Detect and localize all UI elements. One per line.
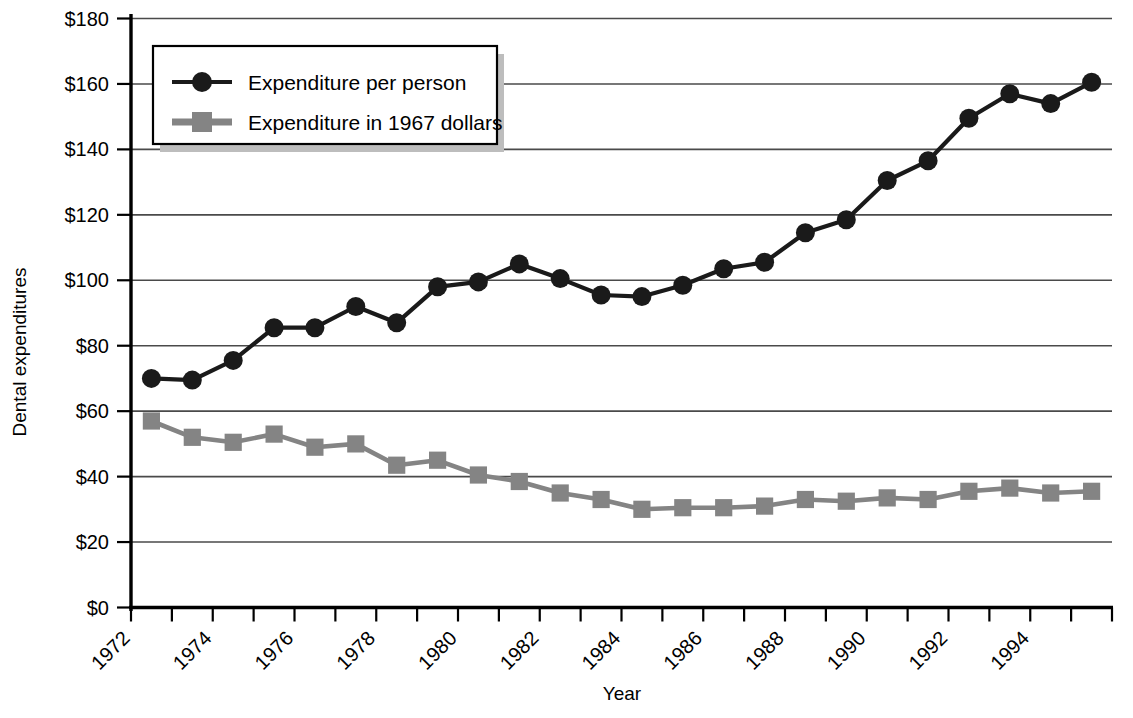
- y-tick-label: $20: [76, 531, 109, 553]
- y-tick-label: $0: [87, 597, 109, 619]
- y-tick-label: $100: [65, 269, 110, 291]
- data-point-marker[interactable]: [837, 210, 856, 229]
- data-point-marker[interactable]: [673, 276, 692, 295]
- data-point-marker[interactable]: [878, 171, 897, 190]
- y-tick-label: $140: [65, 138, 110, 160]
- y-tick-label: $120: [65, 204, 110, 226]
- data-point-marker[interactable]: [143, 412, 160, 429]
- data-point-marker[interactable]: [879, 489, 896, 506]
- data-point-marker[interactable]: [755, 253, 774, 272]
- data-point-marker[interactable]: [838, 493, 855, 510]
- data-point-marker[interactable]: [593, 491, 610, 508]
- data-point-marker[interactable]: [1000, 84, 1019, 103]
- line-chart: $0$20$40$60$80$100$120$140$160$180 19721…: [0, 0, 1133, 718]
- data-point-marker[interactable]: [428, 277, 447, 296]
- data-point-marker[interactable]: [714, 259, 733, 278]
- data-point-marker[interactable]: [225, 434, 242, 451]
- data-point-marker[interactable]: [551, 269, 570, 288]
- y-tick-label: $160: [65, 73, 110, 95]
- data-point-marker[interactable]: [224, 351, 243, 370]
- data-point-marker[interactable]: [511, 473, 528, 490]
- legend-label: Expenditure in 1967 dollars: [248, 111, 503, 134]
- data-point-marker[interactable]: [552, 484, 569, 501]
- y-axis-title: Dental expenditures: [9, 268, 30, 437]
- data-point-marker[interactable]: [1083, 483, 1100, 500]
- data-point-marker[interactable]: [796, 223, 815, 242]
- data-point-marker[interactable]: [305, 318, 324, 337]
- y-tick-label: $40: [76, 466, 109, 488]
- data-point-marker[interactable]: [183, 371, 202, 390]
- data-point-marker[interactable]: [266, 426, 283, 443]
- data-point-marker[interactable]: [756, 498, 773, 515]
- data-point-marker[interactable]: [797, 491, 814, 508]
- data-point-marker[interactable]: [510, 254, 529, 273]
- data-point-marker[interactable]: [265, 318, 284, 337]
- data-point-marker[interactable]: [960, 483, 977, 500]
- data-point-marker[interactable]: [592, 286, 611, 305]
- data-point-marker[interactable]: [1042, 484, 1059, 501]
- y-tick-label: $60: [76, 400, 109, 422]
- y-tick-label: $80: [76, 335, 109, 357]
- data-point-marker[interactable]: [429, 452, 446, 469]
- x-axis-title: Year: [603, 683, 642, 704]
- data-point-marker[interactable]: [632, 287, 651, 306]
- data-point-marker[interactable]: [959, 109, 978, 128]
- data-point-marker[interactable]: [1041, 94, 1060, 113]
- legend-circle-marker: [192, 72, 212, 92]
- data-point-marker[interactable]: [919, 151, 938, 170]
- data-point-marker[interactable]: [388, 457, 405, 474]
- chart-container: $0$20$40$60$80$100$120$140$160$180 19721…: [0, 0, 1133, 718]
- legend: Expenditure per personExpenditure in 196…: [153, 46, 504, 152]
- y-tick-label: $180: [65, 8, 110, 30]
- legend-label: Expenditure per person: [248, 71, 466, 94]
- data-point-marker[interactable]: [142, 369, 161, 388]
- data-point-marker[interactable]: [633, 501, 650, 518]
- data-point-marker[interactable]: [715, 499, 732, 516]
- data-point-marker[interactable]: [1001, 480, 1018, 497]
- legend-square-marker: [192, 112, 212, 132]
- data-point-marker[interactable]: [470, 466, 487, 483]
- data-point-marker[interactable]: [469, 272, 488, 291]
- data-point-marker[interactable]: [674, 499, 691, 516]
- data-point-marker[interactable]: [347, 435, 364, 452]
- data-point-marker[interactable]: [184, 429, 201, 446]
- data-point-marker[interactable]: [920, 491, 937, 508]
- data-point-marker[interactable]: [306, 439, 323, 456]
- data-point-marker[interactable]: [1082, 73, 1101, 92]
- data-point-marker[interactable]: [387, 313, 406, 332]
- data-point-marker[interactable]: [346, 297, 365, 316]
